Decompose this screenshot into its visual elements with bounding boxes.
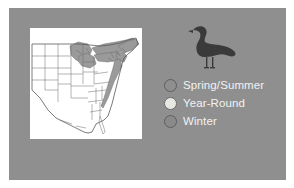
legend-item-year-round[interactable]: Year-Round: [164, 94, 289, 112]
gull-silhouette-graphic: [187, 22, 239, 74]
swatch-winter: [164, 115, 177, 128]
legend-item-spring-summer[interactable]: Spring/Summer: [164, 76, 289, 94]
range-legend: Spring/Summer Year-Round Winter: [164, 76, 289, 130]
legend-label-year-round: Year-Round: [183, 97, 245, 110]
us-range-map-graphic: [30, 28, 142, 139]
bird-range-map-figure: Spring/Summer Year-Round Winter: [0, 0, 294, 188]
legend-label-spring-summer: Spring/Summer: [183, 79, 264, 92]
gray-panel: Spring/Summer Year-Round Winter: [9, 8, 286, 180]
legend-item-winter[interactable]: Winter: [164, 112, 289, 130]
gull-silhouette-icon: [187, 22, 239, 74]
swatch-spring-summer: [164, 79, 177, 92]
us-range-map-card: [30, 28, 142, 139]
legend-label-winter: Winter: [183, 115, 217, 128]
swatch-year-round: [164, 97, 177, 110]
